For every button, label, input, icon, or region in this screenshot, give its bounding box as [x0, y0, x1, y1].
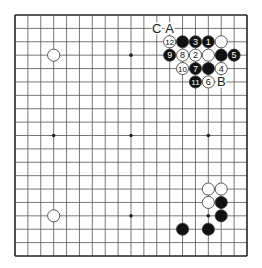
point-label: C — [152, 21, 161, 36]
white-stone: 8 — [176, 49, 188, 61]
black-stone: 5 — [228, 49, 240, 61]
move-number: 12 — [165, 38, 174, 47]
white-stone — [215, 36, 227, 48]
black-stone — [202, 62, 214, 74]
black-stone — [202, 223, 214, 235]
black-stone — [176, 36, 188, 48]
star-point — [52, 134, 56, 138]
point-label: A — [165, 21, 174, 36]
black-stone — [215, 210, 227, 222]
move-number: 10 — [178, 65, 187, 74]
move-number: 1 — [206, 37, 211, 47]
white-stone-icon — [202, 183, 214, 195]
star-point — [129, 53, 133, 57]
black-stone-icon — [202, 223, 214, 235]
black-stone-icon — [176, 36, 188, 48]
white-stone: 12 — [164, 36, 176, 48]
black-stone — [215, 49, 227, 61]
star-point — [207, 134, 211, 138]
move-number: 6 — [206, 77, 211, 87]
white-stone-icon — [48, 49, 60, 61]
black-stone-icon — [215, 210, 227, 222]
white-stone — [202, 183, 214, 195]
black-stone-icon — [215, 49, 227, 61]
black-stone-icon — [202, 62, 214, 74]
star-point — [207, 214, 211, 218]
white-stone-icon — [202, 196, 214, 208]
white-stone — [48, 210, 60, 222]
move-number: 2 — [193, 50, 198, 60]
black-stone: 7 — [189, 62, 201, 74]
go-board: 123198251074116 CAB — [0, 0, 262, 268]
white-stone-icon — [215, 36, 227, 48]
move-number: 8 — [180, 50, 185, 60]
black-stone: 1 — [202, 36, 214, 48]
white-stone: 10 — [176, 62, 188, 74]
white-stone: 6 — [202, 76, 214, 88]
white-stone — [202, 49, 214, 61]
move-number: 7 — [193, 64, 198, 74]
black-stone: 11 — [189, 76, 201, 88]
white-stone — [215, 183, 227, 195]
black-stone — [176, 223, 188, 235]
move-number: 11 — [191, 78, 200, 87]
black-stone — [215, 196, 227, 208]
move-number: 3 — [193, 37, 198, 47]
move-number: 9 — [167, 50, 172, 60]
point-label: B — [217, 74, 226, 89]
move-number: 5 — [232, 50, 237, 60]
white-stone: 2 — [189, 49, 201, 61]
white-stone-icon — [202, 49, 214, 61]
white-stone-icon — [48, 210, 60, 222]
black-stone-icon — [215, 196, 227, 208]
star-point — [129, 214, 133, 218]
white-stone — [202, 196, 214, 208]
black-stone-icon — [176, 223, 188, 235]
white-stone — [48, 49, 60, 61]
black-stone: 3 — [189, 36, 201, 48]
black-stone: 9 — [164, 49, 176, 61]
white-stone: 4 — [215, 62, 227, 74]
move-number: 4 — [219, 64, 224, 74]
white-stone-icon — [215, 183, 227, 195]
star-point — [129, 134, 133, 138]
